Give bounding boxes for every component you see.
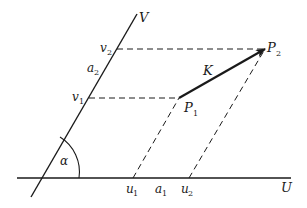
- a2-label: a 2: [87, 61, 99, 77]
- p2-label: P 2: [266, 40, 281, 58]
- svg-text:2: 2: [94, 68, 99, 77]
- v-axis-label: V: [139, 10, 150, 25]
- svg-text:2: 2: [107, 48, 112, 57]
- svg-text:v: v: [100, 41, 107, 55]
- vector-k: [179, 49, 265, 98]
- k-label: K: [202, 63, 214, 78]
- svg-text:1: 1: [193, 109, 198, 118]
- u2-projection-line: [189, 49, 265, 178]
- svg-text:1: 1: [162, 189, 167, 198]
- u1-label: u 1: [126, 182, 138, 198]
- svg-text:1: 1: [133, 189, 138, 198]
- svg-text:P: P: [266, 40, 276, 55]
- u2-label: u 2: [181, 182, 193, 198]
- v2-label: v 2: [100, 41, 112, 57]
- u-axis-label: U: [281, 180, 293, 195]
- svg-text:P: P: [183, 100, 193, 115]
- svg-text:1: 1: [79, 97, 84, 106]
- oblique-coordinate-diagram: V U α K P 1 P 2 v 2 a 2 v 1 u 1 a 1 u 2: [0, 0, 307, 208]
- alpha-label: α: [60, 154, 68, 168]
- svg-text:2: 2: [188, 189, 193, 198]
- svg-text:v: v: [72, 90, 79, 104]
- svg-text:2: 2: [276, 49, 281, 58]
- u1-projection-line: [133, 98, 179, 178]
- a1-label: a 1: [155, 182, 167, 198]
- v1-label: v 1: [72, 90, 84, 106]
- p1-label: P 1: [183, 100, 198, 118]
